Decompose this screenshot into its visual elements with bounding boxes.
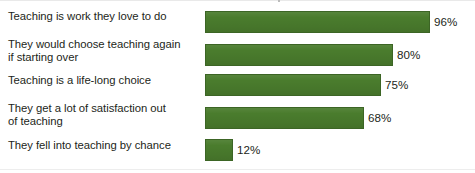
bar-chart: Teaching is work they love to do 96% The…	[0, 0, 475, 173]
bar-track: 12%	[205, 139, 475, 161]
bar-category-label: They fell into teaching by chance	[8, 139, 200, 152]
bar-rows: Teaching is work they love to do 96% The…	[0, 0, 475, 173]
bar-track: 75%	[205, 74, 475, 96]
bar-value-label: 80%	[397, 47, 420, 63]
bar-track: 80%	[205, 44, 475, 66]
bar-fill	[205, 139, 233, 161]
bar-fill	[205, 74, 381, 96]
bar-fill	[205, 107, 364, 129]
bar-row: Teaching is work they love to do 96%	[0, 5, 475, 38]
bar-row: They get a lot of satisfaction out of te…	[0, 102, 475, 135]
bar-category-label: Teaching is a life-long choice	[8, 74, 200, 87]
bar-value-label: 96%	[434, 14, 457, 30]
bar-category-label: They would choose teaching again if star…	[8, 38, 200, 65]
bar-fill	[205, 44, 393, 66]
bar-track: 96%	[205, 11, 475, 33]
bar-category-label: Teaching is work they love to do	[8, 10, 200, 23]
bar-fill	[205, 11, 430, 33]
bar-row: They fell into teaching by chance 12%	[0, 135, 475, 168]
bar-row: Teaching is a life-long choice 75%	[0, 70, 475, 103]
bar-category-label: They get a lot of satisfaction out of te…	[8, 102, 200, 129]
bar-value-label: 75%	[385, 77, 408, 93]
bar-track: 68%	[205, 107, 475, 129]
bar-value-label: 68%	[368, 110, 391, 126]
bar-row: They would choose teaching again if star…	[0, 38, 475, 71]
bar-value-label: 12%	[237, 142, 260, 158]
